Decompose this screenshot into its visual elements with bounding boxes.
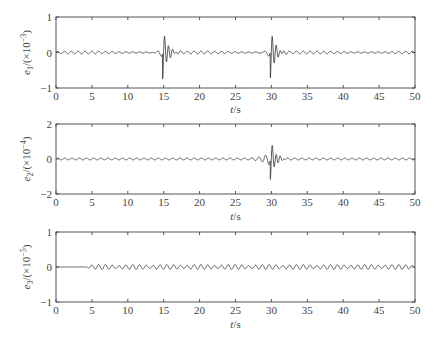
y-tick-label: 1 bbox=[47, 226, 53, 238]
x-tick-label: 15 bbox=[158, 196, 170, 208]
plot-frame bbox=[56, 17, 415, 88]
x-tick-label: 20 bbox=[194, 90, 206, 102]
x-tick-label: 50 bbox=[410, 196, 422, 208]
y-tick-label: −1 bbox=[40, 82, 52, 94]
x-tick-label: 50 bbox=[410, 90, 422, 102]
x-axis-title: t/s bbox=[230, 103, 240, 115]
series-line-e1 bbox=[56, 36, 415, 79]
x-tick-label: 0 bbox=[53, 90, 59, 102]
x-tick-label: 15 bbox=[158, 90, 170, 102]
subplot-3: 05101520253035404550−101t/se3/(×10−5) bbox=[19, 226, 421, 330]
x-tick-label: 45 bbox=[374, 90, 386, 102]
x-tick-label: 5 bbox=[89, 304, 95, 316]
x-tick-label: 50 bbox=[410, 304, 422, 316]
y-axis-title: e1/(×10−3) bbox=[19, 30, 35, 75]
x-tick-label: 25 bbox=[230, 196, 242, 208]
x-tick-label: 20 bbox=[194, 304, 206, 316]
x-tick-label: 25 bbox=[230, 90, 242, 102]
x-tick-label: 45 bbox=[374, 304, 386, 316]
x-tick-label: 10 bbox=[122, 304, 134, 316]
x-axis-title: t/s bbox=[230, 210, 240, 222]
x-tick-label: 10 bbox=[122, 196, 134, 208]
y-axis-title: e3/(×10−5) bbox=[19, 244, 35, 289]
x-tick-label: 40 bbox=[338, 196, 350, 208]
x-tick-label: 40 bbox=[338, 304, 350, 316]
x-tick-label: 10 bbox=[122, 90, 134, 102]
series-line-e3 bbox=[56, 265, 415, 270]
x-axis-title: t/s bbox=[230, 318, 240, 330]
y-tick-label: 0 bbox=[47, 153, 53, 165]
y-tick-label: −2 bbox=[40, 188, 52, 200]
series-line-e2 bbox=[56, 145, 415, 179]
x-tick-label: 5 bbox=[89, 196, 95, 208]
x-tick-label: 0 bbox=[53, 304, 59, 316]
x-tick-label: 5 bbox=[89, 90, 95, 102]
y-tick-label: 0 bbox=[47, 261, 53, 273]
plot-frame bbox=[56, 232, 415, 302]
y-tick-label: 2 bbox=[47, 118, 53, 130]
x-tick-label: 35 bbox=[302, 90, 314, 102]
x-tick-label: 30 bbox=[266, 196, 278, 208]
x-tick-label: 35 bbox=[302, 196, 314, 208]
x-tick-label: 35 bbox=[302, 304, 314, 316]
y-tick-label: 1 bbox=[47, 11, 53, 23]
x-tick-label: 0 bbox=[53, 196, 59, 208]
x-tick-label: 25 bbox=[230, 304, 242, 316]
x-tick-label: 45 bbox=[374, 196, 386, 208]
x-tick-label: 15 bbox=[158, 304, 170, 316]
y-tick-label: −1 bbox=[40, 296, 52, 308]
subplot-1: 05101520253035404550−101t/se1/(×10−3) bbox=[19, 11, 421, 115]
x-tick-label: 30 bbox=[266, 304, 278, 316]
y-tick-label: 0 bbox=[47, 47, 53, 59]
x-tick-label: 30 bbox=[266, 90, 278, 102]
chart-figure: 05101520253035404550−101t/se1/(×10−3)051… bbox=[0, 0, 438, 346]
x-tick-label: 40 bbox=[338, 90, 350, 102]
x-tick-label: 20 bbox=[194, 196, 206, 208]
subplot-2: 05101520253035404550−202t/se2/(×10−4) bbox=[19, 118, 421, 222]
y-axis-title: e2/(×10−4) bbox=[19, 136, 35, 181]
